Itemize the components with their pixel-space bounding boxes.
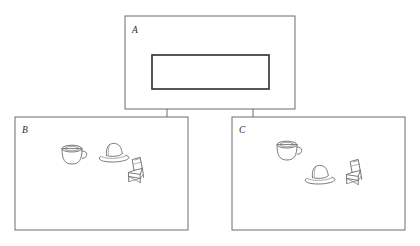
- diagram-canvas: A B: [0, 0, 420, 246]
- connectors: [167, 109, 253, 117]
- panel-b-border: [15, 117, 188, 230]
- panel-b: B: [15, 117, 188, 230]
- panel-a-label: A: [131, 25, 138, 35]
- panel-c-label: C: [239, 125, 246, 135]
- panel-a-inner-rectangle: [152, 55, 269, 89]
- panel-c: C: [232, 117, 405, 230]
- panel-b-label: B: [22, 125, 28, 135]
- diagram-svg: A B: [0, 0, 420, 246]
- panel-a: A: [125, 16, 295, 109]
- panel-c-border: [232, 117, 405, 230]
